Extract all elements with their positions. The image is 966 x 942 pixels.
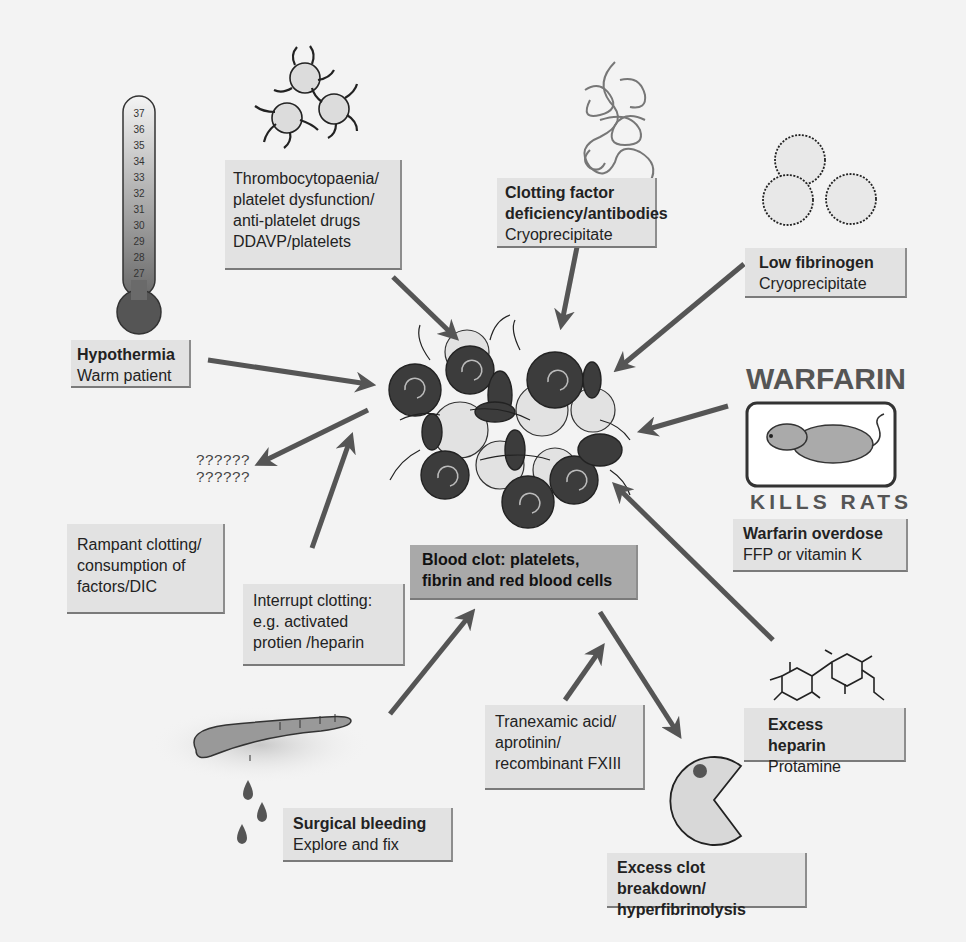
node-line: Rampant clotting/ xyxy=(77,534,213,555)
node-line: Tranexamic acid/ xyxy=(495,711,633,732)
node-heading: Warfarin overdose xyxy=(743,523,896,544)
arrow-clotting-factor xyxy=(562,247,577,322)
arrow-platelets xyxy=(393,277,453,335)
blood-clot-illustration xyxy=(389,315,630,528)
blood-drop-icons xyxy=(237,780,267,844)
node-tranexamic: Tranexamic acid/ aprotinin/ recombinant … xyxy=(485,705,645,790)
node-line: recombinant FXIII xyxy=(495,753,633,774)
node-line: protien /heparin xyxy=(253,632,393,653)
node-rampant-clotting: Rampant clotting/ consumption of factors… xyxy=(67,524,225,614)
node-line: anti-platelet drugs xyxy=(233,210,392,231)
node-line: factors/DIC xyxy=(77,576,213,597)
thermometer-icon: 373635 343332 313029 2827 xyxy=(117,96,161,334)
question-line: ?????? xyxy=(196,470,250,487)
node-line: Interrupt clotting: xyxy=(253,590,393,611)
node-heading: Excess heparin xyxy=(768,714,880,756)
arrow-fibrinogen xyxy=(620,264,744,367)
heparin-molecule-icon xyxy=(770,650,884,700)
arrow-interrupt-clotting xyxy=(312,440,350,548)
svg-text:30: 30 xyxy=(133,220,145,231)
node-heading: deficiency/antibodies xyxy=(505,203,647,224)
node-line: e.g. activated xyxy=(253,611,393,632)
node-line: DDAVP/platelets xyxy=(233,231,392,252)
pacman-icon xyxy=(670,757,741,845)
svg-text:34: 34 xyxy=(133,156,145,167)
fibrinogen-icon xyxy=(763,135,876,225)
arrow-hypothermia xyxy=(208,360,368,384)
svg-text:32: 32 xyxy=(133,188,145,199)
svg-text:31: 31 xyxy=(133,204,145,215)
arrow-to-unknown xyxy=(262,410,368,462)
node-heading: hyperfibrinolysis xyxy=(617,899,795,920)
node-heading: Clotting factor xyxy=(505,182,647,203)
node-line: Thrombocytopaenia/ xyxy=(233,168,392,189)
node-heading: Low fibrinogen xyxy=(759,252,891,273)
node-treatment: Explore and fix xyxy=(293,834,441,855)
svg-text:36: 36 xyxy=(133,124,145,135)
question-line: ?????? xyxy=(196,453,250,470)
node-treatment: Warm patient xyxy=(77,365,183,386)
node-heading: Surgical bleeding xyxy=(293,813,441,834)
svg-text:28: 28 xyxy=(133,252,145,263)
node-interrupt-clotting: Interrupt clotting: e.g. activated proti… xyxy=(243,584,405,666)
wound-icon xyxy=(150,707,370,783)
node-line: consumption of xyxy=(77,555,213,576)
node-treatment: Protamine xyxy=(768,756,880,777)
blood-clot-diagram: 373635 343332 313029 2827 xyxy=(0,0,966,942)
node-heading: Excess clot breakdown/ xyxy=(617,857,795,899)
center-title-line: Blood clot: platelets, xyxy=(422,549,624,570)
node-treatment: Cryoprecipitate xyxy=(759,273,891,294)
node-low-fibrinogen: Low fibrinogen Cryoprecipitate xyxy=(745,248,907,298)
node-hypothermia: Hypothermia Warm patient xyxy=(71,340,191,388)
rat-icon xyxy=(747,403,895,486)
node-line: aprotinin/ xyxy=(495,732,633,753)
node-thrombocytopaenia: Thrombocytopaenia/ platelet dysfunction/… xyxy=(225,160,402,270)
node-surgical-bleeding: Surgical bleeding Explore and fix xyxy=(283,808,453,862)
node-excess-heparin: Excess heparin Protamine xyxy=(744,708,906,762)
node-warfarin-overdose: Warfarin overdose FFP or vitamin K xyxy=(733,519,908,572)
protein-icon xyxy=(584,62,653,191)
svg-text:35: 35 xyxy=(133,140,145,151)
svg-text:37: 37 xyxy=(133,108,145,119)
node-treatment: Cryoprecipitate xyxy=(505,224,647,245)
node-line: platelet dysfunction/ xyxy=(233,189,392,210)
center-blood-clot-label: Blood clot: platelets, fibrin and red bl… xyxy=(410,545,638,600)
svg-text:29: 29 xyxy=(133,236,145,247)
arrow-tranexamic xyxy=(565,650,600,700)
platelets-icon xyxy=(255,46,357,148)
node-treatment: FFP or vitamin K xyxy=(743,544,896,565)
kills-rats-label: KILLS RATS xyxy=(750,490,912,514)
svg-text:33: 33 xyxy=(133,172,145,183)
unknown-question-marks: ?????? ?????? xyxy=(196,453,250,487)
svg-text:27: 27 xyxy=(133,268,145,279)
node-hyperfibrinolysis: Excess clot breakdown/ hyperfibrinolysis xyxy=(607,853,807,908)
arrow-warfarin xyxy=(645,406,728,430)
center-title-line: fibrin and red blood cells xyxy=(422,570,624,591)
node-heading: Hypothermia xyxy=(77,344,183,365)
node-clotting-factor: Clotting factor deficiency/antibodies Cr… xyxy=(497,178,657,248)
diagram-graphics: 373635 343332 313029 2827 xyxy=(0,0,966,942)
warfarin-label: WARFARIN xyxy=(746,362,906,396)
